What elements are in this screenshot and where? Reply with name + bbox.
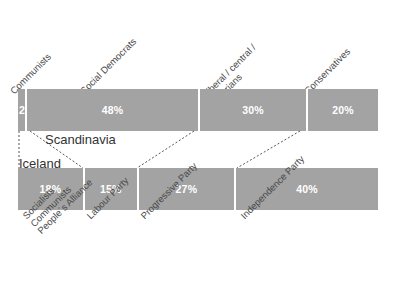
bar-segment-communists[interactable]: 2% <box>18 89 25 131</box>
category-label-social-democrats: Social Democrats <box>79 36 139 96</box>
group-label-scandinavia: Scandinavia <box>45 132 116 147</box>
connector-line-social-democrats <box>137 131 194 168</box>
chart-canvas: Communists Social Democrats Liberal / ce… <box>0 0 396 302</box>
connector-lines <box>0 0 396 302</box>
bar-segment-social-democrats[interactable]: 48% <box>25 89 198 131</box>
category-label-line: Social Democrats <box>79 36 139 96</box>
bar-segment-value: 30% <box>242 104 264 116</box>
stacked-bar-scandinavia[interactable]: 2% 48% 30% 20% <box>18 89 378 131</box>
bar-segment-value: 40% <box>296 183 318 195</box>
bar-segment-liberal-central-agrarians[interactable]: 30% <box>198 89 306 131</box>
bar-segment-value: 20% <box>332 104 354 116</box>
bar-segment-conservatives[interactable]: 20% <box>306 89 378 131</box>
bar-segment-value: 48% <box>102 104 124 116</box>
